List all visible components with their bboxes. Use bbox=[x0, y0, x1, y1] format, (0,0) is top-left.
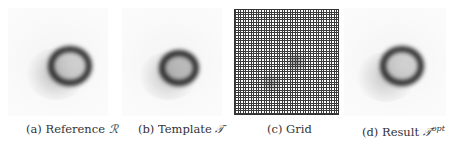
caption-d-symbol: 𝒯 bbox=[423, 125, 432, 139]
ring-structure bbox=[48, 46, 92, 86]
caption-b-text: (b) Template bbox=[138, 122, 212, 136]
caption-a: (a) Reference ℛ bbox=[26, 122, 118, 136]
grid-compression-region bbox=[259, 72, 283, 94]
caption-a-text: (a) Reference bbox=[26, 122, 105, 136]
ring-structure bbox=[380, 46, 424, 86]
grid-compression-region bbox=[283, 52, 309, 72]
caption-b: (b) Template 𝒯 bbox=[138, 122, 224, 136]
reference-image-panel bbox=[8, 8, 108, 116]
caption-b-symbol: 𝒯 bbox=[215, 122, 224, 136]
caption-d-text: (d) Result bbox=[362, 125, 419, 139]
deformation-grid-panel bbox=[234, 9, 339, 115]
caption-d-superscript: opt bbox=[432, 124, 445, 133]
caption-d: (d) Result 𝒯opt bbox=[362, 122, 445, 139]
caption-c: (c) Grid bbox=[267, 122, 312, 136]
caption-c-text: (c) Grid bbox=[267, 122, 312, 136]
template-image-panel bbox=[122, 8, 222, 116]
ring-structure bbox=[159, 50, 199, 86]
result-image-panel bbox=[344, 8, 446, 116]
caption-a-symbol: ℛ bbox=[109, 122, 118, 136]
